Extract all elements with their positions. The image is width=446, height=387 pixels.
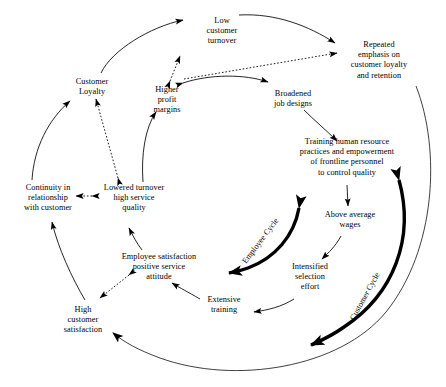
edge-wages-to-selection: [322, 236, 341, 259]
node-above-average-wages[interactable]: Above average wages: [314, 210, 386, 230]
edge-continuity-to-loyalty: [32, 101, 70, 180]
edge-profit-to-low-turnover-dotted: [170, 56, 180, 81]
node-high-customer-satisfaction[interactable]: High customer satisfaction: [52, 305, 114, 336]
edge-lowered-turnover-to-profit: [143, 112, 156, 182]
node-lowered-turnover[interactable]: Lowered turnover high service quality: [96, 183, 172, 214]
edge-lowered-turnover-to-loyalty-dotted: [96, 99, 118, 178]
edge-profit-to-repeated-emphasis-dotted: [184, 53, 337, 79]
node-repeated-emphasis[interactable]: Repeated emphasis on customer loyalty an…: [333, 40, 425, 81]
node-broadened-job-designs[interactable]: Broadened job designs: [262, 89, 324, 109]
edge-loyalty-to-low-turnover: [101, 20, 183, 73]
node-continuity-in-relationship[interactable]: Continuity in relationship with customer: [10, 183, 86, 214]
node-training-human-resource[interactable]: Training human resource practices and em…: [291, 137, 403, 178]
diagram-canvas: Low customer turnover Repeated emphasis …: [0, 0, 446, 387]
node-intensified-selection-effort[interactable]: Intensified selection effort: [282, 262, 338, 293]
node-extensive-training[interactable]: Extensive training: [196, 295, 252, 315]
node-customer-loyalty[interactable]: Customer Loyalty: [62, 77, 122, 97]
edge-customer-satisfaction-to-continuity: [52, 222, 85, 300]
edge-selection-to-training: [254, 299, 294, 312]
edge-low-turnover-to-repeated-emphasis: [239, 15, 335, 43]
node-low-customer-turnover[interactable]: Low customer turnover: [191, 16, 253, 47]
edge-employee-satisfaction-to-lowered-turnover: [129, 228, 142, 250]
node-higher-profit-margins[interactable]: Higher profit margins: [143, 85, 191, 116]
edge-training-to-wages: [347, 185, 348, 206]
node-employee-satisfaction[interactable]: Employee satisfaction positive service a…: [104, 252, 214, 283]
